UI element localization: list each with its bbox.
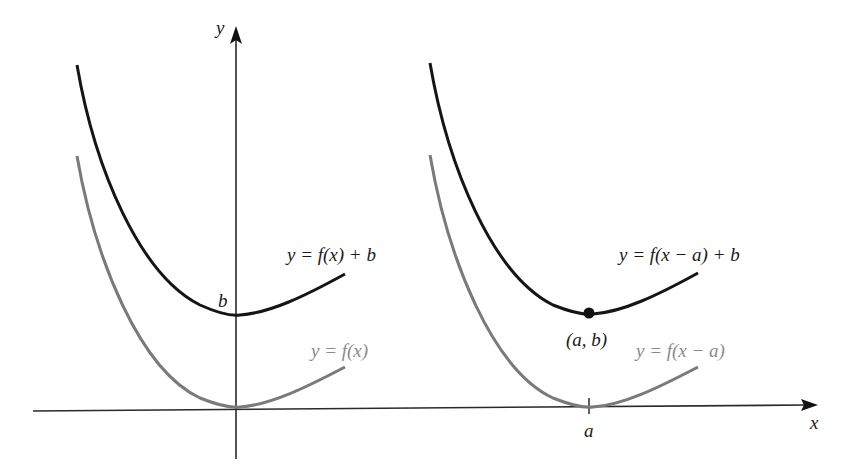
x-axis-label: x xyxy=(810,413,818,432)
curve-f-plus-b xyxy=(77,65,345,315)
curve-f xyxy=(77,156,345,407)
tick-a-label: a xyxy=(584,421,594,440)
curve-f-x-minus-a-plus-b xyxy=(430,63,698,314)
label-f-plus-b: y = f(x) + b xyxy=(287,245,376,264)
point-a-b xyxy=(584,308,595,319)
shift-diagram: y x b y = f(x) + b y = f(x) y = f(x − a)… xyxy=(0,0,862,465)
point-a-b-label: (a, b) xyxy=(566,330,607,349)
intercept-b-label: b xyxy=(218,291,228,310)
label-f: y = f(x) xyxy=(311,341,368,360)
label-f-x-minus-a: y = f(x − a) xyxy=(636,341,725,360)
x-axis xyxy=(33,405,806,411)
curve-f-x-minus-a xyxy=(430,155,698,407)
diagram-graphics xyxy=(0,0,862,465)
label-f-x-minus-a-plus-b: y = f(x − a) + b xyxy=(619,245,740,264)
y-axis-label: y xyxy=(216,18,224,37)
